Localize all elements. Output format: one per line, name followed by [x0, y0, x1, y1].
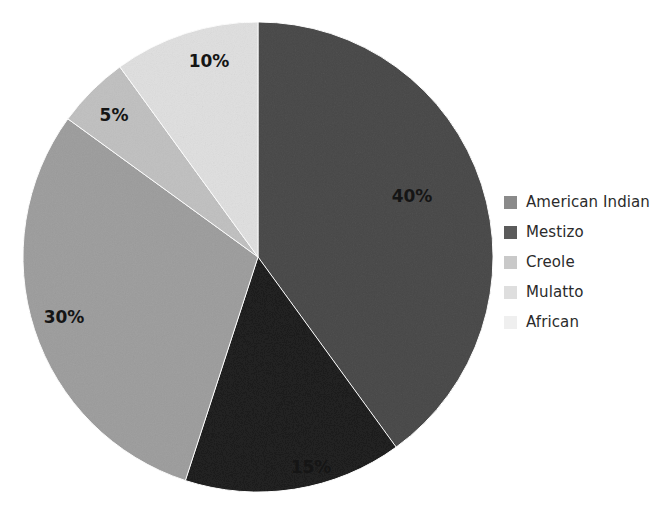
pie-label-mulatto: 5% [100, 105, 129, 125]
legend-label-creole: Creole [526, 255, 575, 270]
legend-swatch-mestizo [504, 226, 517, 239]
legend-item-mestizo[interactable]: Mestizo [504, 217, 671, 247]
legend-label-african: African [526, 315, 579, 330]
legend-item-creole[interactable]: Creole [504, 247, 671, 277]
legend-label-mestizo: Mestizo [526, 225, 584, 240]
legend-item-mulatto[interactable]: Mulatto [504, 277, 671, 307]
pie-label-creole: 30% [44, 307, 85, 327]
legend-label-mulatto: Mulatto [526, 285, 583, 300]
legend-label-american-indian: American Indian [526, 195, 650, 210]
legend: American Indian Mestizo Creole Mulatto A… [504, 187, 671, 337]
pie-label-african: 10% [189, 51, 230, 71]
legend-swatch-creole [504, 256, 517, 269]
legend-swatch-american-indian [504, 196, 517, 209]
pie-label-american-indian: 40% [392, 186, 433, 206]
legend-item-african[interactable]: African [504, 307, 671, 337]
legend-swatch-african [504, 316, 517, 329]
pie-slices [23, 22, 493, 492]
pie-label-mestizo: 15% [291, 457, 332, 477]
legend-swatch-mulatto [504, 286, 517, 299]
legend-item-american-indian[interactable]: American Indian [504, 187, 671, 217]
pie-chart: 40%15%30%5%10% American Indian Mestizo C… [0, 0, 671, 522]
